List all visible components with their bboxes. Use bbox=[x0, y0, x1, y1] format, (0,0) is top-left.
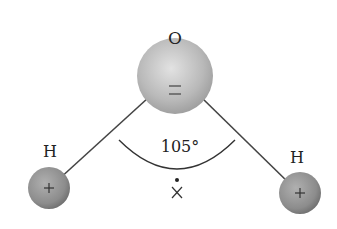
bond-left bbox=[58, 98, 148, 180]
hydrogen-right-label: H bbox=[290, 148, 304, 167]
bond-angle-label: 105° bbox=[161, 137, 200, 156]
oxygen-label: O bbox=[168, 28, 182, 48]
oxygen-atom bbox=[137, 38, 213, 114]
water-molecule-diagram: O H H 105° bbox=[0, 0, 337, 229]
hydrogen-left-label: H bbox=[43, 142, 57, 161]
bond-right bbox=[202, 98, 292, 186]
center-dot-icon bbox=[175, 178, 179, 182]
